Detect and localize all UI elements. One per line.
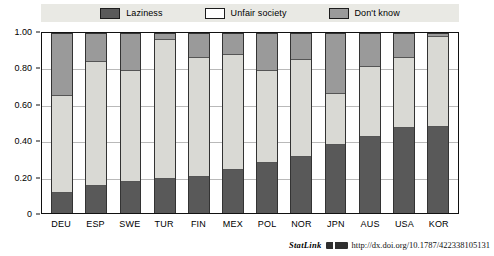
- stacked-bar[interactable]: [154, 33, 176, 213]
- bar-segment-unfair-society: [394, 58, 414, 128]
- x-axis-labels: DEUESPSWETURFINMEXPOLNORJPNAUSUSAKOR: [41, 218, 459, 232]
- stacked-bar[interactable]: [393, 33, 415, 213]
- x-axis-label-tur: TUR: [147, 218, 181, 232]
- stacked-bar[interactable]: [290, 33, 312, 213]
- stacked-bar[interactable]: [51, 33, 73, 213]
- chart-legend: Laziness Unfair society Don't know: [41, 4, 459, 22]
- x-axis-label-aus: AUS: [353, 218, 387, 232]
- bar-segment-unfair-society: [223, 55, 243, 170]
- bar-segment-laziness: [428, 127, 448, 213]
- bar-slot: [353, 33, 387, 213]
- statlink-glyph-icon: [326, 242, 348, 249]
- stacked-bar[interactable]: [256, 33, 278, 213]
- legend-label-laziness: Laziness: [126, 9, 162, 18]
- bar-segment-unfair-society: [52, 96, 72, 193]
- bar-segment-don-t-know: [223, 33, 243, 55]
- statlink-label: StatLink: [289, 240, 322, 250]
- bar-segment-unfair-society: [428, 37, 448, 127]
- bar-segment-unfair-society: [360, 67, 380, 137]
- bar-segment-laziness: [291, 157, 311, 213]
- plot-area: [41, 32, 459, 214]
- bar-slot: [148, 33, 182, 213]
- x-axis-label-deu: DEU: [44, 218, 78, 232]
- bar-segment-laziness: [155, 179, 175, 213]
- x-axis-label-fin: FIN: [181, 218, 215, 232]
- bar-segment-don-t-know: [52, 33, 72, 96]
- bar-slot: [113, 33, 147, 213]
- x-axis-label-swe: SWE: [113, 218, 147, 232]
- stacked-bar[interactable]: [188, 33, 210, 213]
- figure-footer: StatLink http://dx.doi.org/10.1787/42233…: [0, 238, 494, 252]
- y-axis-tick-label: 0.80: [14, 64, 32, 73]
- y-axis-tick-mark: [36, 214, 40, 215]
- bar-segment-don-t-know: [291, 33, 311, 60]
- y-axis-tick-mark: [36, 104, 40, 105]
- y-axis-tick-label: 1.00: [14, 28, 32, 37]
- bar-segment-don-t-know: [360, 33, 380, 67]
- stacked-bar[interactable]: [85, 33, 107, 213]
- legend-swatch-dont-know: [329, 8, 349, 19]
- legend-item-dont-know: Don't know: [329, 8, 400, 19]
- y-axis-tick-label: 0.40: [14, 137, 32, 146]
- bar-slot: [45, 33, 79, 213]
- bar-segment-unfair-society: [257, 71, 277, 163]
- y-axis-tick-mark: [36, 68, 40, 69]
- bar-slot: [79, 33, 113, 213]
- bar-segment-laziness: [52, 193, 72, 213]
- bar-segment-laziness: [189, 177, 209, 213]
- bar-segment-don-t-know: [155, 33, 175, 40]
- bar-series-container: [42, 33, 458, 213]
- x-axis-label-nor: NOR: [284, 218, 318, 232]
- bar-segment-laziness: [394, 128, 414, 213]
- bar-segment-unfair-society: [291, 60, 311, 157]
- bar-slot: [182, 33, 216, 213]
- bar-segment-laziness: [86, 186, 106, 213]
- y-axis-tick-mark: [36, 177, 40, 178]
- stacked-bar[interactable]: [222, 33, 244, 213]
- bar-slot: [250, 33, 284, 213]
- stacked-bar[interactable]: [427, 33, 449, 213]
- bar-segment-unfair-society: [86, 62, 106, 186]
- x-axis-label-kor: KOR: [422, 218, 456, 232]
- y-axis-tick-mark: [36, 141, 40, 142]
- bar-slot: [284, 33, 318, 213]
- x-axis-label-jpn: JPN: [319, 218, 353, 232]
- bar-segment-unfair-society: [155, 40, 175, 179]
- bar-segment-unfair-society: [326, 94, 346, 144]
- legend-swatch-unfair-society: [205, 8, 225, 19]
- bar-segment-don-t-know: [189, 33, 209, 58]
- legend-item-laziness: Laziness: [100, 8, 162, 19]
- legend-swatch-laziness: [100, 8, 120, 19]
- stacked-bar[interactable]: [359, 33, 381, 213]
- legend-item-unfair-society: Unfair society: [205, 8, 287, 19]
- x-axis-label-mex: MEX: [216, 218, 250, 232]
- x-axis-label-usa: USA: [387, 218, 421, 232]
- bar-slot: [216, 33, 250, 213]
- bar-slot: [421, 33, 455, 213]
- bar-segment-don-t-know: [257, 33, 277, 71]
- bar-segment-laziness: [326, 145, 346, 213]
- stacked-bar[interactable]: [325, 33, 347, 213]
- y-axis-tick-label: 0.20: [14, 173, 32, 182]
- x-axis-label-esp: ESP: [78, 218, 112, 232]
- statlink-url[interactable]: http://dx.doi.org/10.1787/422338105131: [352, 240, 490, 250]
- bar-segment-don-t-know: [86, 33, 106, 62]
- bar-segment-unfair-society: [121, 71, 141, 183]
- y-axis-tick-mark: [36, 32, 40, 33]
- stacked-bar[interactable]: [120, 33, 142, 213]
- bar-segment-laziness: [360, 137, 380, 213]
- bar-segment-don-t-know: [121, 33, 141, 71]
- bar-segment-don-t-know: [394, 33, 414, 58]
- x-axis-label-pol: POL: [250, 218, 284, 232]
- legend-label-dont-know: Don't know: [355, 9, 400, 18]
- y-axis: 1.000.800.600.400.200: [0, 32, 36, 214]
- y-axis-tick-label: 0.60: [14, 100, 32, 109]
- chart-figure: Laziness Unfair society Don't know 1.000…: [0, 0, 494, 256]
- bar-segment-laziness: [121, 182, 141, 213]
- legend-label-unfair-society: Unfair society: [231, 9, 287, 18]
- y-axis-tick-label: 0: [27, 210, 32, 219]
- bar-segment-laziness: [257, 163, 277, 213]
- bar-slot: [318, 33, 352, 213]
- bar-slot: [387, 33, 421, 213]
- bar-segment-unfair-society: [189, 58, 209, 177]
